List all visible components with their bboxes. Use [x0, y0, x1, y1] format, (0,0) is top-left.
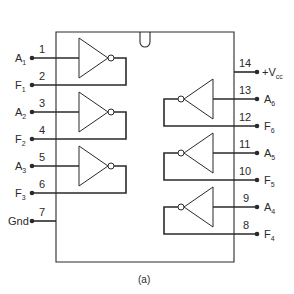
pin-number-6: 6: [39, 178, 45, 190]
pin-number-1: 1: [39, 43, 45, 55]
ic-notch: [140, 32, 150, 47]
pin-label-a5: A5: [264, 147, 275, 161]
pin-number-5: 5: [39, 151, 45, 163]
pin-number-8: 8: [243, 219, 249, 231]
pin-number-7: 7: [39, 206, 45, 218]
pin-label-f4: F4: [264, 228, 275, 242]
pin-label-f3: F3: [15, 187, 26, 201]
hex-inverter-diagram: 1 2 3 4 5 6 7 A1 F1 A2 F2 A3 F3 Gnd 14 1…: [0, 0, 294, 294]
pin-number-12: 12: [239, 111, 251, 123]
pin-number-14: 14: [239, 57, 251, 69]
pin-label-a3: A3: [15, 160, 26, 174]
pin-label-f6: F6: [264, 120, 275, 134]
pin-label-vcc: +Vcc: [262, 66, 283, 80]
pin-label-a1: A1: [15, 52, 26, 66]
pin-number-4: 4: [39, 124, 45, 136]
pin-number-11: 11: [239, 138, 250, 150]
pin-label-f5: F5: [264, 174, 275, 188]
pin-label-gnd: Gnd: [8, 215, 29, 227]
pin-number-10: 10: [239, 165, 251, 177]
pin-label-f2: F2: [15, 133, 26, 147]
pin-number-2: 2: [39, 70, 45, 82]
pin-label-a2: A2: [15, 106, 26, 120]
pin-label-f1: F1: [15, 79, 26, 93]
gnd-pin-wire: [30, 219, 56, 224]
pin-number-9: 9: [243, 192, 249, 204]
pin-number-13: 13: [239, 84, 251, 96]
pin-label-a4: A4: [264, 201, 275, 215]
pin-label-a6: A6: [264, 93, 275, 107]
figure-caption: (a): [138, 274, 150, 285]
vcc-pin-wire: [234, 70, 259, 75]
pin-number-3: 3: [39, 97, 45, 109]
